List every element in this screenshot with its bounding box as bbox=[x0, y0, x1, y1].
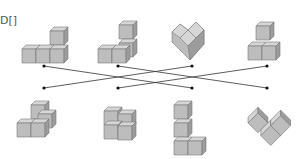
top-figure-2 bbox=[98, 21, 137, 63]
bottom-figure-1 bbox=[17, 101, 56, 137]
matching-diagram bbox=[0, 0, 304, 159]
top-figure-3 bbox=[172, 22, 204, 60]
top-figure-1 bbox=[22, 27, 68, 63]
dot-bottom-4 bbox=[265, 86, 268, 89]
dot-top-4 bbox=[265, 64, 268, 67]
dot-top-1 bbox=[42, 64, 45, 67]
dot-top-2 bbox=[116, 64, 119, 67]
dot-top-3 bbox=[190, 64, 193, 67]
dot-bottom-1 bbox=[42, 86, 45, 89]
dot-bottom-2 bbox=[116, 86, 119, 89]
dot-bottom-3 bbox=[190, 86, 193, 89]
connection-lines bbox=[44, 66, 267, 88]
dots bbox=[42, 64, 268, 89]
bottom-figure-3 bbox=[174, 101, 206, 155]
top-figure-4 bbox=[248, 22, 280, 60]
bottom-figure-4 bbox=[245, 97, 293, 145]
bottom-figure-2 bbox=[104, 107, 136, 140]
